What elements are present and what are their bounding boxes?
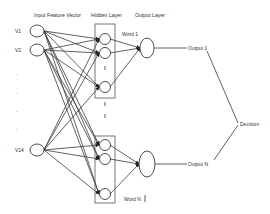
- input-nodes: [30, 25, 44, 156]
- input-label-ellipsis-3: .: [16, 107, 17, 113]
- input-label-ellipsis-4: .: [16, 125, 17, 131]
- input-labels: V1 V2 . . . . V14: [15, 28, 24, 153]
- hidden-group-1: [95, 24, 115, 118]
- hidden-node: [100, 154, 111, 165]
- output-n-label: Output N: [188, 161, 208, 167]
- decision-line-1: [207, 51, 238, 123]
- decision-label: Decision: [240, 121, 259, 127]
- header-output-layer: Output Layer: [135, 12, 165, 18]
- output-1-label: Output 1: [188, 45, 207, 51]
- hidden-to-output-connections: [110, 39, 140, 194]
- input-node-v1: [30, 25, 44, 37]
- output-node-n: [139, 151, 155, 177]
- word-1-label: Word 1: [122, 31, 138, 37]
- output-node-1: [140, 38, 154, 58]
- decision-line-n: [214, 125, 238, 160]
- input-node-v2: [30, 44, 44, 56]
- input-label-ellipsis-2: .: [16, 89, 17, 95]
- word-n-label: Word N: [124, 196, 141, 202]
- header-input-feature-vector: Input Feature Vector: [34, 12, 81, 18]
- hidden-node: [100, 189, 111, 200]
- input-label-v14: V14: [15, 147, 24, 153]
- input-node-v14: [30, 144, 44, 156]
- neural-network-diagram: Input Feature Vector Hidden Layer Output…: [0, 0, 270, 214]
- input-to-hidden-connections: [44, 31, 99, 194]
- hidden-node: [100, 48, 111, 59]
- input-label-v2: V2: [15, 47, 21, 53]
- input-label-v1: V1: [15, 28, 21, 34]
- hidden-node: [100, 34, 111, 45]
- hidden-node: [100, 140, 111, 151]
- input-label-ellipsis-1: .: [16, 70, 17, 76]
- header-hidden-layer: Hidden Layer: [91, 12, 122, 18]
- hidden-node: [100, 82, 111, 93]
